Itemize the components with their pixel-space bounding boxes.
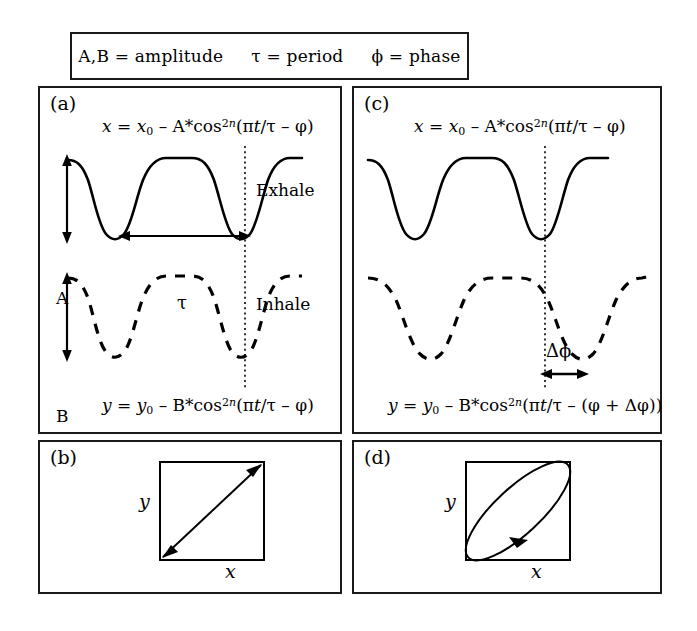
figure-canvas: A,B = amplitude τ = period ϕ = phase (a)…	[0, 0, 697, 631]
panel-a-equation-y: y = y0 – B*cos2n(πt/τ – φ)	[102, 395, 314, 417]
panel-d-y-axis-label: y	[445, 490, 456, 512]
panel-b-x-axis-label: x	[225, 560, 236, 582]
panel-d: (d) y x	[352, 440, 662, 594]
exhale-label: Exhale	[256, 180, 315, 200]
legend-box: A,B = amplitude τ = period ϕ = phase	[70, 32, 469, 80]
panel-d-x-axis-label: x	[531, 560, 542, 582]
phase-shift-label: Δϕ	[546, 340, 571, 361]
trajectory-ellipse	[453, 448, 584, 574]
y-waveform-dashed-shifted	[368, 276, 650, 359]
panel-a: (a) x = x0 – A*cos2n(πt/τ – φ)	[38, 86, 342, 434]
x-waveform-solid	[368, 158, 608, 239]
panel-b-plot	[40, 442, 340, 592]
legend-text: A,B = amplitude τ = period ϕ = phase	[78, 46, 460, 66]
y-waveform-dashed	[68, 276, 302, 357]
panel-a-waveforms	[40, 88, 340, 432]
period-tau-label: τ	[177, 292, 187, 313]
panel-c-equation-y: y = y0 – B*cos2n(πt/τ – (φ + Δφ))	[388, 395, 662, 417]
panel-c-waveforms	[354, 88, 660, 432]
amplitude-b-arrow	[62, 272, 72, 362]
inhale-label: Inhale	[256, 294, 310, 314]
phase-shift-arrow	[540, 369, 589, 379]
panel-c: (c) x = x0 – A*cos2n(πt/τ – φ) Δϕ y = y0…	[352, 86, 662, 434]
arrow-up-right	[246, 464, 262, 477]
amplitude-a-arrow	[62, 154, 72, 244]
panel-b: (b) y x	[38, 440, 342, 594]
panel-b-y-axis-label: y	[139, 490, 150, 512]
amplitude-b-label: B	[56, 406, 69, 426]
panel-d-plot	[354, 442, 660, 592]
arrow-down-left	[162, 545, 178, 558]
trajectory-line	[163, 465, 261, 557]
amplitude-a-label: A	[56, 288, 68, 308]
